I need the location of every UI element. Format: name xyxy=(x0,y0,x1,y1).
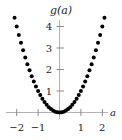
data-point xyxy=(81,84,85,88)
y-tick-label: 3 xyxy=(46,43,52,54)
data-point xyxy=(100,25,104,29)
y-tick-label: 4 xyxy=(46,21,52,32)
data-point xyxy=(34,84,38,88)
data-point xyxy=(83,80,87,84)
data-point xyxy=(15,25,19,29)
y-axis-ticks: 1234 xyxy=(46,21,64,97)
x-axis-label: a xyxy=(110,107,116,118)
data-point xyxy=(13,16,17,20)
data-point xyxy=(94,48,98,52)
data-point xyxy=(102,16,106,20)
data-point xyxy=(17,33,21,37)
x-tick-label: 1 xyxy=(78,122,84,133)
chart-title: g(a) xyxy=(50,4,72,17)
data-point xyxy=(32,80,36,84)
chart-canvas: g(a) −2−112 1234 a xyxy=(0,0,122,140)
data-point xyxy=(77,93,81,97)
x-tick-label: 2 xyxy=(99,122,105,133)
data-point xyxy=(21,48,25,52)
data-point xyxy=(96,41,100,45)
parabola-scatter-plot: g(a) −2−112 1234 a xyxy=(0,0,122,140)
data-point xyxy=(23,55,27,59)
data-point xyxy=(79,89,83,93)
data-point xyxy=(75,97,79,101)
data-point xyxy=(90,62,94,66)
data-point xyxy=(36,89,40,93)
data-point xyxy=(25,62,29,66)
x-tick-label: −1 xyxy=(31,122,46,133)
data-point xyxy=(38,93,42,97)
data-point xyxy=(92,55,96,59)
data-point xyxy=(87,68,91,72)
data-point xyxy=(19,41,23,45)
data-point xyxy=(85,74,89,78)
y-tick-label: 1 xyxy=(46,86,52,97)
data-point xyxy=(28,68,32,72)
data-point xyxy=(98,33,102,37)
y-tick-label: 2 xyxy=(46,64,52,75)
data-point xyxy=(30,74,34,78)
x-tick-label: −2 xyxy=(9,122,24,133)
